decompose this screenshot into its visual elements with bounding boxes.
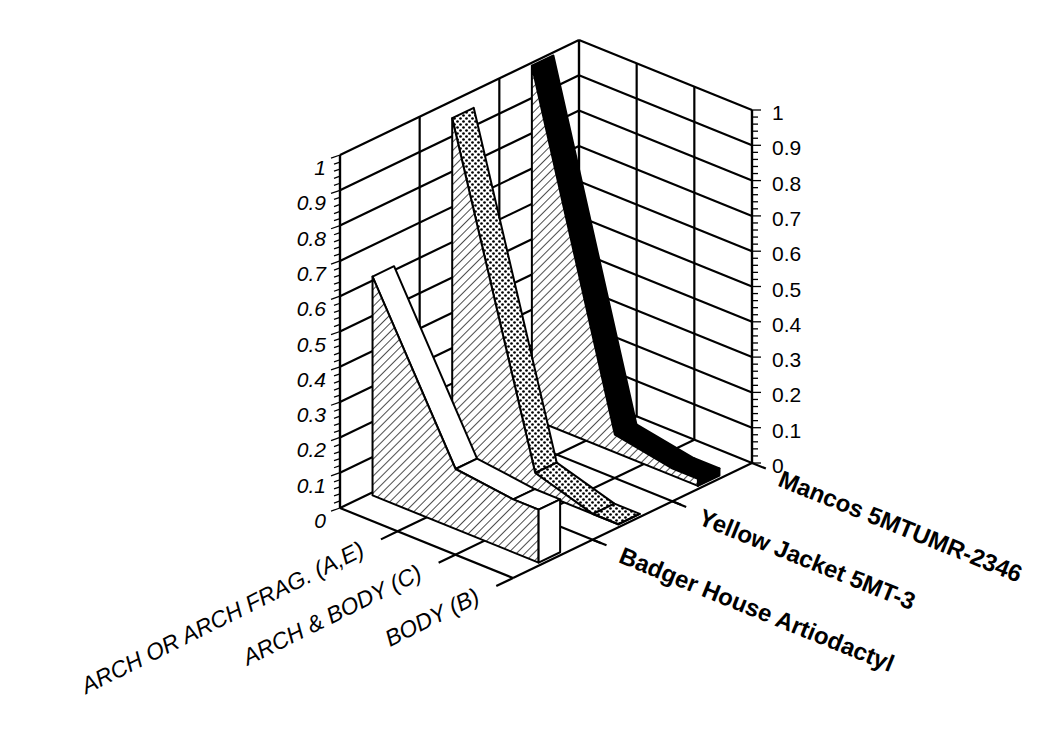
z-tick-left: 0.4: [297, 368, 326, 391]
ribbon-chart-3d: 000.10.10.20.20.30.30.40.40.50.50.60.60.…: [0, 0, 1055, 735]
z-tick-right: 0.2: [772, 383, 801, 406]
z-tick-right: 0.1: [772, 419, 801, 442]
z-tick-right: 0.7: [772, 207, 801, 230]
z-tick-left: 0: [314, 509, 326, 532]
z-tick-right: 0.9: [772, 136, 801, 159]
z-tick-right: 0.8: [772, 172, 801, 195]
z-tick-left: 1: [314, 156, 326, 179]
z-tick-left: 0.1: [297, 474, 326, 497]
z-tick-left: 0.5: [297, 333, 327, 356]
z-tick-right: 1: [772, 101, 784, 124]
z-tick-left: 0.2: [297, 438, 327, 461]
z-tick-left: 0.7: [297, 262, 328, 285]
z-tick-left: 0.8: [297, 227, 327, 250]
z-tick-right: 0.6: [772, 242, 801, 265]
z-tick-right: 0.4: [772, 313, 802, 336]
z-tick-left: 0.3: [297, 403, 327, 426]
z-tick-right: 0.3: [772, 348, 801, 371]
ribbon-series-group: [373, 55, 720, 562]
z-tick-left: 0.6: [297, 297, 327, 320]
z-tick-left: 0.9: [297, 191, 327, 214]
z-tick-right: 0.5: [772, 278, 801, 301]
series-label: Badger House Artiodactyl: [616, 542, 899, 677]
